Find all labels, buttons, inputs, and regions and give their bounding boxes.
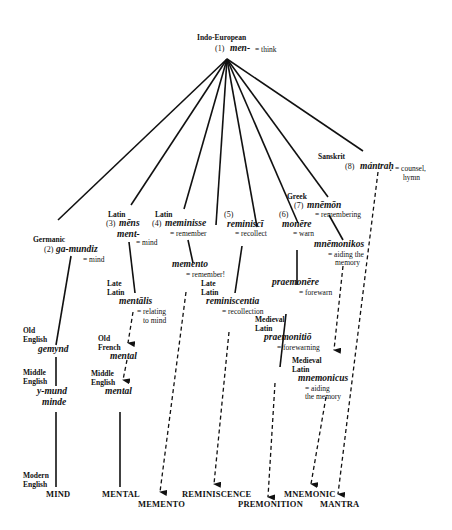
latin-meminisse-word: meminisse [165,219,206,229]
middle-english-lang2: English [23,378,47,386]
memento-word: memento [172,260,208,270]
root-number: (1) [215,45,224,53]
latin-mens-number: (3) [106,220,115,228]
modern-word-reminiscence: REMINISCENCE [182,490,251,499]
middle-english-word1: y-mund [37,387,67,397]
mnemonikos-gloss2: memory [335,259,360,267]
latin-mens-word1: mēns [119,219,140,229]
reminisci-number: (5) [224,211,233,219]
reminiscentia-word: reminiscentia [206,297,259,307]
germanic-language: Germanic [33,236,65,244]
root-word: men- [230,44,250,54]
late-latin-lang1: Late [107,280,122,288]
monere-number: (6) [279,211,288,219]
old-french-word: mental [110,352,137,362]
reminiscentia-lang1: Late [201,280,216,288]
root-gloss: = think [255,46,277,54]
sanskrit-gloss1: = counsel, [395,165,426,173]
germanic-word: ga-mundiz [56,245,98,255]
greek-number: (7) [294,202,303,210]
middle-english-lang1: Middle [23,369,46,377]
monere-gloss: = warn [293,230,314,238]
old-english-lang2: English [23,336,47,344]
germanic-number: (2) [44,246,53,254]
modern-english-lang2: English [23,481,47,489]
late-latin-gloss1: = relating [137,308,166,316]
old-english-word: gemynd [38,345,69,355]
praemonere-gloss: = forewarn [299,289,332,297]
mnemonicus-lang1: Medieval [292,357,322,365]
sanskrit-gloss2: hymn [403,174,420,182]
me-mental-lang1: Middle [91,370,114,378]
sanskrit-number: (8) [345,163,354,171]
modern-word-mental: MENTAL [102,490,140,499]
latin-meminisse-number: (4) [152,220,161,228]
praemonitio-gloss: = forewarning [277,344,320,352]
latin-meminisse-gloss: = remember [170,230,207,238]
greek-language: Greek [287,193,307,201]
modern-word-mnemonic: MNEMONIC [284,490,336,499]
greek-gloss: = remembering [315,211,361,219]
mnemonicus-gloss2: the memory [305,393,341,401]
memento-gloss: = remember! [186,271,225,279]
modern-word-mantra: MANTRA [320,500,359,509]
praemonere-word: praemonēre [272,278,319,288]
late-latin-gloss2: to mind [143,317,166,325]
praemonitio-word: praemonitiō [264,333,312,343]
etymology-tree-lines [0,0,452,530]
modern-word-memento: MEMENTO [138,500,185,509]
reminisci-gloss: = recollect [235,230,267,238]
modern-english-lang1: Modern [23,472,49,480]
late-latin-word: mentālis [119,297,152,307]
latin-mens-gloss: = mind [136,239,158,247]
sanskrit-language: Sanskrit [318,153,345,161]
mnemonikos-word: mnēmonikos [314,240,364,250]
me-mental-word: mental [105,387,132,397]
middle-english-word2: minde [42,398,66,408]
modern-word-mind: MIND [46,490,70,499]
old-french-lang1: Old [98,335,110,343]
old-english-lang1: Old [23,327,35,335]
germanic-gloss: = mind [83,256,105,264]
praemonitio-lang1: Medieval [255,316,285,324]
mnemonicus-word: mnemonicus [298,374,348,384]
modern-word-premonition: PREMONITION [238,500,303,509]
root-language: Indo-European [197,34,246,42]
sanskrit-word: mántraḥ [360,162,394,172]
